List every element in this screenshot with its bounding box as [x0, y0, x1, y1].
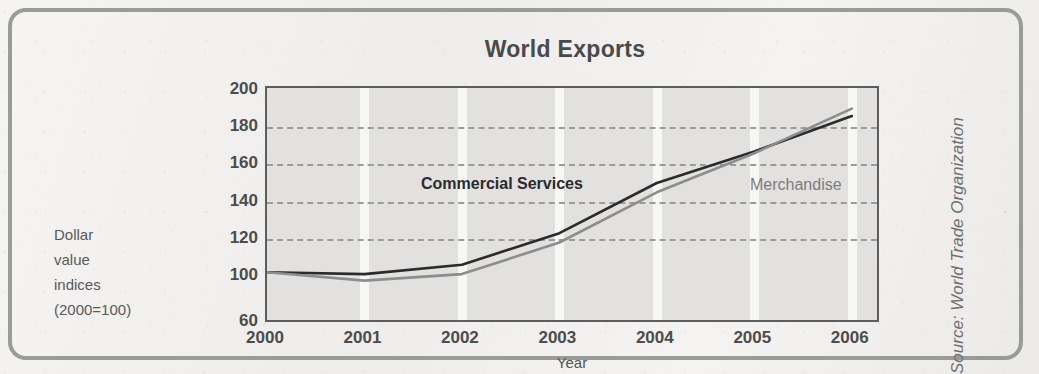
y-axis-caption: Dollar value indices (2000=100) — [54, 222, 131, 322]
y-axis-caption-line-4: (2000=100) — [54, 297, 131, 322]
y-axis-caption-line-2: value — [54, 247, 131, 272]
x-axis-tick: 2001 — [344, 328, 382, 348]
chart-frame: World Exports Source: World Trade Organi… — [8, 8, 1023, 360]
y-axis-tick-labels: 20018016014012010060 — [200, 86, 258, 322]
y-axis-tick: 100 — [206, 265, 258, 285]
y-axis-caption-line-1: Dollar — [54, 222, 131, 247]
y-axis-caption-line-3: indices — [54, 272, 131, 297]
plot-inner — [267, 88, 877, 320]
y-axis-tick: 140 — [206, 191, 258, 211]
y-axis-tick: 180 — [206, 116, 258, 136]
series-line-commercial-services — [267, 116, 852, 274]
y-axis-tick: 200 — [206, 79, 258, 99]
y-axis-tick: 160 — [206, 153, 258, 173]
x-axis-tick: 2005 — [733, 328, 771, 348]
series-label-merchandise: Merchandise — [750, 176, 842, 194]
x-axis-tick-labels: 2000200120022003200420052006 — [265, 328, 879, 352]
x-axis-tick: 2002 — [441, 328, 479, 348]
series-line-merchandise — [267, 109, 852, 281]
x-axis-tick: 2000 — [246, 328, 284, 348]
series-lines — [267, 88, 877, 320]
series-label-commercial-services: Commercial Services — [421, 175, 583, 193]
source-credit: Source: World Trade Organization — [948, 24, 976, 374]
chart-title: World Exports — [265, 36, 865, 63]
x-axis-tick: 2003 — [538, 328, 576, 348]
x-axis-label: Year — [265, 354, 879, 371]
plot-area — [265, 86, 879, 322]
x-axis-tick: 2004 — [636, 328, 674, 348]
x-axis-tick: 2006 — [831, 328, 869, 348]
y-axis-tick: 120 — [206, 228, 258, 248]
